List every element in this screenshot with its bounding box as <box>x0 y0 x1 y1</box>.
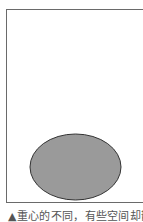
figure-caption: ▲重心的不同，有些空间却散 <box>8 210 143 222</box>
gray-ellipse <box>30 134 121 200</box>
figure-canvas <box>0 0 143 222</box>
